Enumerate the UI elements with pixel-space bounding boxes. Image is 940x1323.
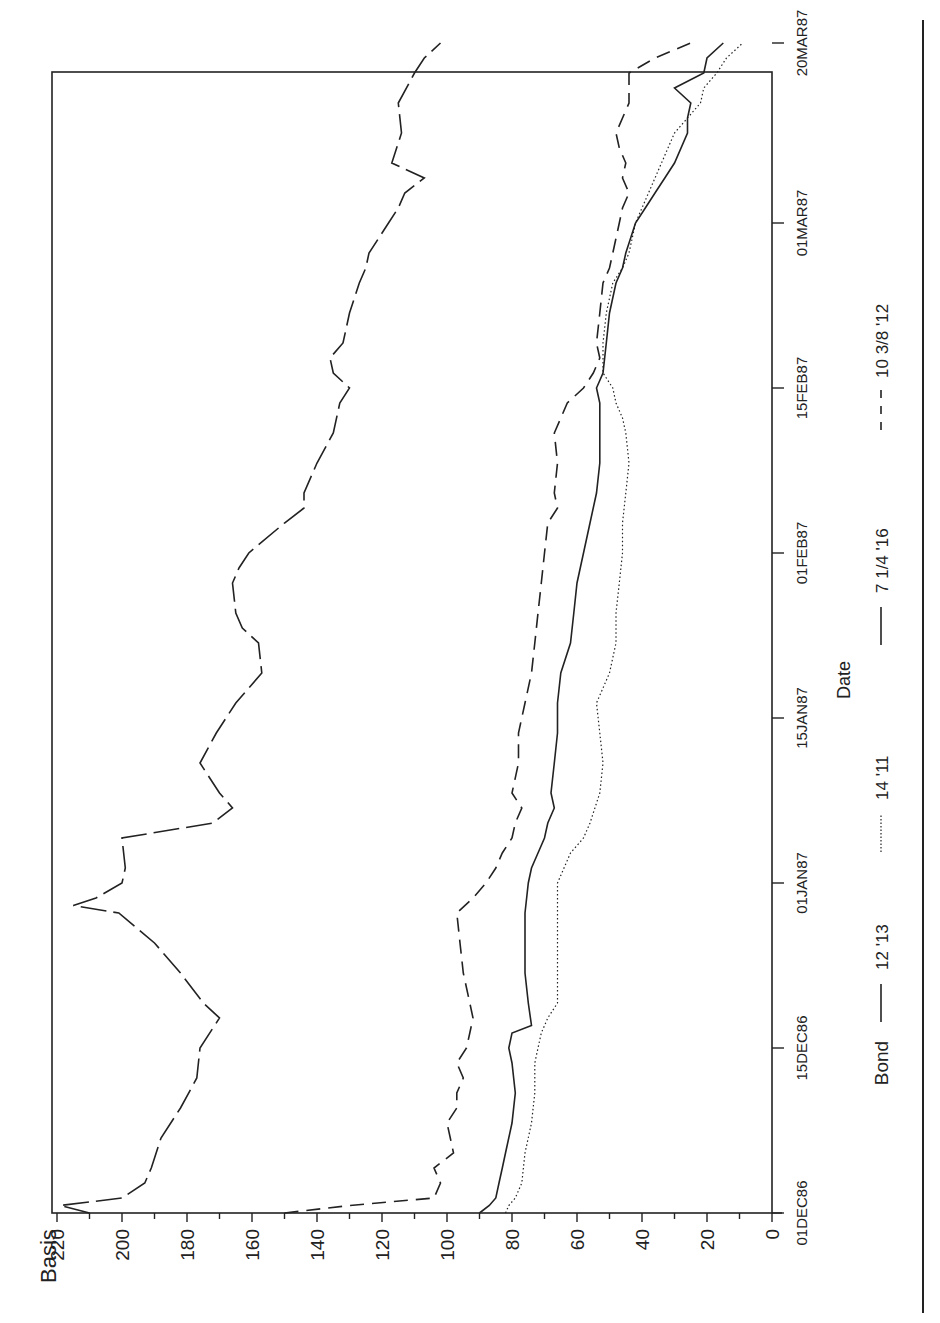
basis-tick-label: 180 [177,1229,198,1261]
legend-label: 10 3/8 '12 [873,304,892,378]
date-tick-label: 20MAR87 [793,10,810,77]
series-layer [60,43,743,1213]
basis-axis: 020406080100120140160180200220 [47,1213,783,1261]
series-line-1 [506,43,743,1213]
basis-tick-label: 160 [242,1229,263,1261]
date-tick-label: 01MAR87 [793,190,810,257]
legend-label: 14 '11 [873,755,892,800]
legend-title: Bond [871,1041,892,1085]
basis-tick-label: 200 [112,1229,133,1261]
basis-tick-label: 40 [632,1229,653,1250]
date-tick-label: 01FEB87 [793,522,810,585]
date-axis-title: Date [834,661,854,699]
date-axis: 01DEC8615DEC8601JAN8715JAN8701FEB8715FEB… [772,10,810,1246]
legend-label: 7 1/4 '16 [873,528,892,593]
basis-tick-label: 60 [567,1229,588,1250]
basis-axis-title: Basis [36,1229,61,1283]
plot-frame [52,72,772,1213]
basis-tick-label: 20 [697,1229,718,1250]
legend: Bond12 '1314 '117 1/4 '1610 3/8 '12 [871,304,892,1085]
legend-label: 12 '13 [873,924,892,970]
date-tick-label: 15JAN87 [793,687,810,749]
basis-tick-label: 100 [437,1229,458,1261]
date-tick-label: 01DEC86 [793,1180,810,1245]
basis-tick-label: 80 [502,1229,523,1250]
date-tick-label: 15FEB87 [793,357,810,420]
series-line-2 [60,43,440,1213]
date-tick-label: 01JAN87 [793,852,810,914]
basis-tick-label: 0 [762,1229,783,1240]
date-tick-label: 15DEC86 [793,1015,810,1080]
basis-tick-label: 140 [307,1229,328,1261]
basis-tick-label: 120 [372,1229,393,1261]
series-line-3 [285,43,691,1213]
rotated-line-chart: 020406080100120140160180200220 01DEC8615… [0,0,940,1323]
series-line-0 [480,43,724,1213]
